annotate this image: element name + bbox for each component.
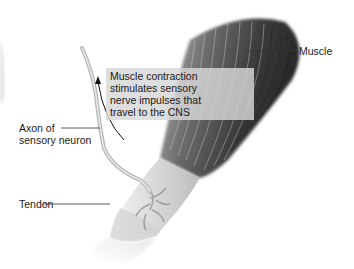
caption-line-4: travel to the CNS [110, 106, 201, 118]
axon-label-line-1: Axon of [19, 122, 55, 134]
caption-line-1: Muscle contraction [110, 70, 201, 82]
caption-line-2: stimulates sensory [110, 82, 201, 94]
tendon [92, 158, 200, 262]
axon-label-line-2: sensory neuron [19, 134, 91, 146]
muscle-label: Muscle [299, 45, 332, 57]
tendon-label: Tendon [19, 198, 53, 210]
caption-line-3: nerve impulses that [110, 94, 201, 106]
diagram-canvas: Muscle contraction stimulates sensory ne… [0, 0, 354, 269]
edge-shadow [0, 38, 5, 104]
caption-text: Muscle contraction stimulates sensory ne… [110, 70, 201, 118]
